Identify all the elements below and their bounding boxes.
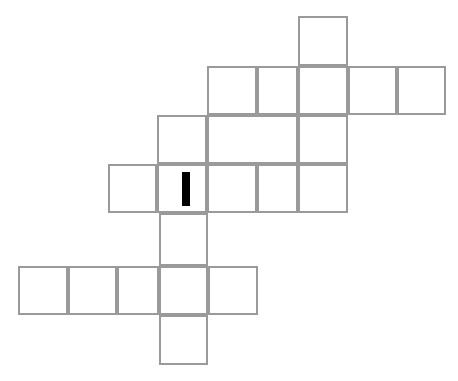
- grid-cell[interactable]: [348, 66, 397, 115]
- grid-cell[interactable]: [157, 115, 207, 164]
- grid-cell[interactable]: [257, 66, 298, 115]
- grid-cell[interactable]: [159, 266, 208, 315]
- grid-cell[interactable]: [207, 164, 257, 213]
- grid-cell[interactable]: [117, 266, 159, 315]
- grid-cell[interactable]: [397, 66, 446, 115]
- grid-cell[interactable]: [159, 315, 208, 365]
- grid-cell[interactable]: [298, 115, 348, 164]
- grid-cell[interactable]: [298, 164, 348, 213]
- grid-cell[interactable]: [108, 164, 157, 213]
- grid-cell[interactable]: [68, 266, 117, 315]
- crossword-grid-canvas: [0, 0, 458, 381]
- grid-cell[interactable]: [207, 115, 298, 164]
- grid-cell[interactable]: [257, 164, 298, 213]
- grid-cell[interactable]: [298, 66, 348, 115]
- grid-cell[interactable]: [207, 66, 257, 115]
- grid-cell[interactable]: [208, 266, 258, 315]
- grid-cell[interactable]: [298, 16, 348, 66]
- text-cursor: [182, 172, 190, 206]
- grid-cell[interactable]: [159, 213, 208, 266]
- grid-cell[interactable]: [18, 266, 68, 315]
